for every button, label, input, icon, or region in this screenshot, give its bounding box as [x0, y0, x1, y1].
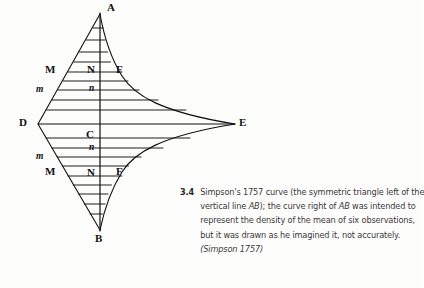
figure-caption-text: Simpson's 1757 curve (the symmetric tria… [200, 185, 424, 256]
figure-number: 3.4 [180, 185, 194, 199]
point-label-n-lower: n [89, 142, 94, 153]
point-label-D: D [19, 117, 27, 128]
point-label-m-lower: m [36, 151, 43, 162]
caption-line-3: represent the density of the mean of six… [200, 213, 424, 227]
point-label-F-lower: F [116, 166, 123, 177]
point-label-M-lower: M [45, 166, 55, 177]
point-label-E: E [239, 117, 246, 128]
caption-line-2: vertical line AB); the curve right of AB… [200, 199, 424, 213]
point-label-B: B [95, 233, 102, 244]
caption-line-4: but it was drawn as he imagined it, not … [200, 228, 424, 242]
point-label-m-upper: m [36, 84, 43, 95]
figure-caption: 3.4 Simpson's 1757 curve (the symmetric … [180, 185, 412, 256]
caption-line-1: Simpson's 1757 curve (the symmetric tria… [200, 185, 424, 199]
point-label-N-lower: N [87, 167, 95, 178]
point-label-C: C [86, 129, 94, 140]
point-label-n-upper: n [89, 83, 94, 94]
caption-source: (Simpson 1757) [200, 242, 424, 256]
point-label-F-upper: F [116, 64, 123, 75]
point-label-M-upper: M [45, 64, 55, 75]
point-label-A: A [107, 2, 115, 13]
point-label-N-upper: N [87, 64, 95, 75]
